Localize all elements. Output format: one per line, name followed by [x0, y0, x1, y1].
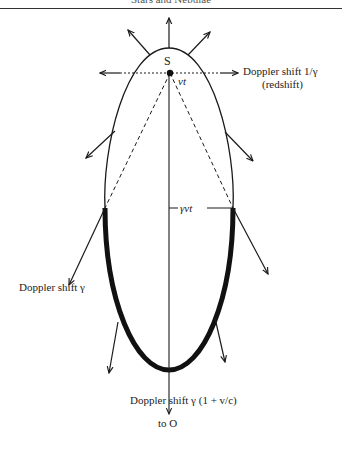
source-dot: [167, 70, 173, 76]
arrow-mid-left: [69, 208, 105, 285]
dashed-line-right: [170, 73, 233, 208]
label-redshift-line2: (redshift): [262, 78, 303, 90]
label-redshift-line1: Doppler shift 1/γ: [243, 65, 318, 77]
arrow-top-left: [128, 30, 150, 55]
width-label: γvt: [180, 202, 192, 214]
arrow-upper-left: [86, 131, 115, 158]
dashed-line-left: [105, 73, 170, 208]
label-to-observer: to O: [158, 417, 177, 429]
displacement-label: vt: [178, 75, 186, 87]
arrow-lower-right: [215, 318, 225, 362]
arrow-top-right: [188, 32, 210, 55]
label-doppler-bottom: Doppler shift γ (1 + v/c): [130, 394, 237, 406]
arrow-lower-left: [109, 322, 118, 373]
label-doppler-gamma: Doppler shift γ: [19, 281, 85, 293]
arrow-mid-right: [233, 208, 268, 274]
source-label: S: [164, 55, 171, 68]
